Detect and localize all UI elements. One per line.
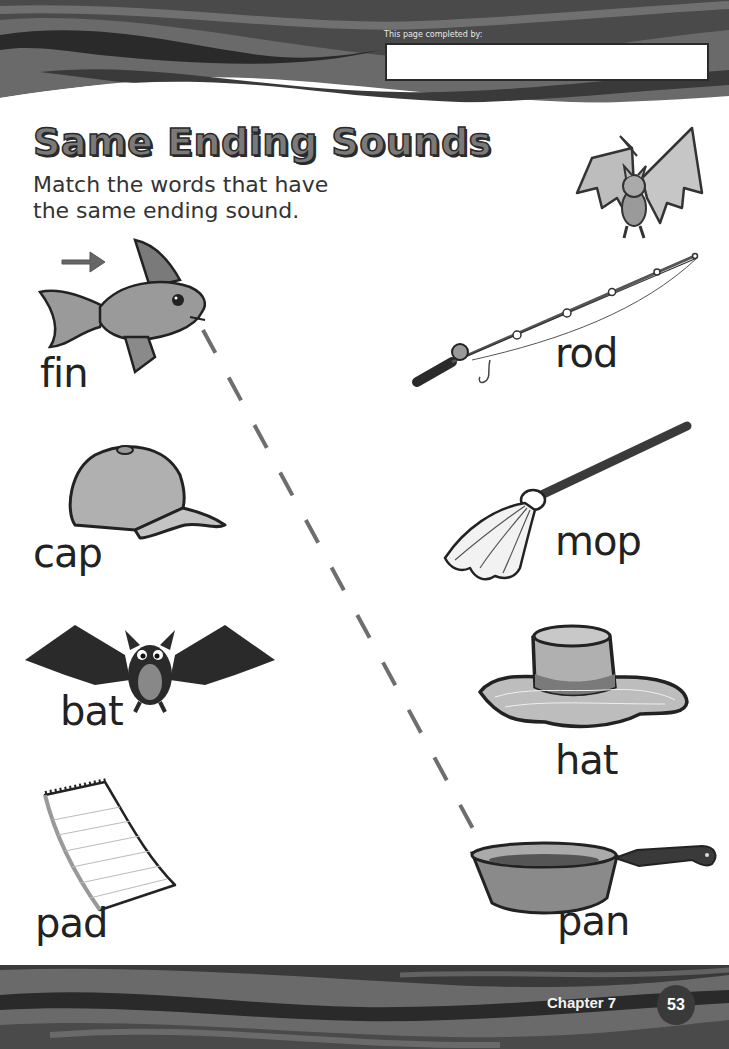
- right-item-rod[interactable]: rod: [412, 250, 702, 395]
- left-item-fin[interactable]: fin: [30, 232, 220, 402]
- left-item-cap[interactable]: cap: [25, 430, 235, 590]
- word-cap: cap: [33, 530, 102, 576]
- word-rod: rod: [555, 330, 617, 376]
- notepad-icon: [35, 775, 215, 915]
- word-bat: bat: [60, 688, 123, 734]
- word-pan: pan: [557, 898, 629, 944]
- right-item-pan[interactable]: pan: [467, 838, 722, 963]
- word-hat: hat: [555, 737, 618, 783]
- word-fin: fin: [40, 350, 88, 396]
- hat-icon: [475, 622, 695, 732]
- word-mop: mop: [555, 518, 641, 564]
- left-item-pad[interactable]: pad: [35, 775, 215, 955]
- page-number-badge: 53: [657, 985, 695, 1025]
- bottom-wave-banner: [0, 965, 729, 1049]
- word-pad: pad: [35, 900, 107, 946]
- mop-icon: [425, 418, 695, 598]
- left-item-bat[interactable]: bat: [25, 620, 275, 740]
- chapter-label: Chapter 7: [547, 994, 616, 1011]
- right-item-hat[interactable]: hat: [475, 622, 695, 792]
- right-item-mop[interactable]: mop: [425, 418, 695, 598]
